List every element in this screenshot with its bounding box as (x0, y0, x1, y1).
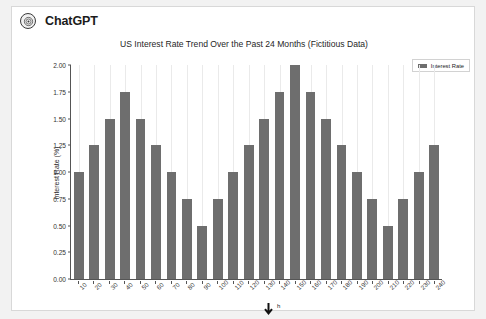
chatgpt-response-card: ChatGPT US Interest Rate Trend Over the … (11, 6, 475, 311)
bar-slot (179, 65, 194, 279)
x-tick: 190 (349, 281, 365, 311)
plot-area: 0.000.250.500.751.001.251.501.752.00 (70, 65, 442, 280)
bar (290, 65, 300, 279)
x-tick: 40 (117, 281, 133, 311)
x-tick: 80 (179, 281, 195, 311)
bar (352, 172, 362, 279)
x-tick: 10 (70, 281, 86, 311)
bar-slot (365, 65, 380, 279)
bar (136, 119, 146, 280)
bar (398, 199, 408, 279)
bar (337, 145, 347, 279)
bar-slot (195, 65, 210, 279)
x-tick: 150 (287, 281, 303, 311)
bar (182, 199, 192, 279)
x-tick: 20 (86, 281, 102, 311)
bar (228, 172, 238, 279)
x-axis: 1020304050607080901001101201301401501601… (70, 281, 442, 311)
bar-slot (334, 65, 349, 279)
bar (89, 145, 99, 279)
bar (120, 92, 130, 279)
bar (197, 226, 207, 280)
app-header: ChatGPT (12, 7, 474, 35)
bar-slot (287, 65, 302, 279)
x-tick: 210 (380, 281, 396, 311)
x-tick: 60 (148, 281, 164, 311)
bar (414, 172, 424, 279)
bar-chart: US Interest Rate Trend Over the Past 24 … (12, 33, 476, 312)
x-tick: 120 (241, 281, 257, 311)
bar-slot (117, 65, 132, 279)
bar-slot (86, 65, 101, 279)
bar (151, 145, 161, 279)
bar-slot (303, 65, 318, 279)
bar (74, 172, 84, 279)
bar-slot (411, 65, 426, 279)
openai-logo-icon (20, 13, 36, 29)
bar (244, 145, 254, 279)
cursor-hint-label: h (277, 303, 280, 309)
bar (105, 119, 115, 280)
bar (275, 92, 285, 279)
x-tick: 180 (334, 281, 350, 311)
bar (321, 119, 331, 280)
bar-slot (272, 65, 287, 279)
bar-series (71, 65, 442, 279)
x-tick: 110 (225, 281, 241, 311)
x-tick: 220 (396, 281, 412, 311)
bar-slot (71, 65, 86, 279)
bar-slot (133, 65, 148, 279)
bar-slot (426, 65, 441, 279)
x-tick: 100 (210, 281, 226, 311)
bar (259, 119, 269, 280)
bar (367, 199, 377, 279)
x-tick: 240 (427, 281, 443, 311)
x-tick: 230 (411, 281, 427, 311)
x-tick: 160 (303, 281, 319, 311)
x-tick: 170 (318, 281, 334, 311)
bar-slot (349, 65, 364, 279)
x-tick: 50 (132, 281, 148, 311)
bar-slot (256, 65, 271, 279)
bar-slot (318, 65, 333, 279)
x-tick: 90 (194, 281, 210, 311)
x-tick: 70 (163, 281, 179, 311)
x-tick: 30 (101, 281, 117, 311)
bar-slot (164, 65, 179, 279)
bar (213, 199, 223, 279)
bar-slot (102, 65, 117, 279)
bar-slot (210, 65, 225, 279)
bar-slot (241, 65, 256, 279)
bar (306, 92, 316, 279)
chart-title: US Interest Rate Trend Over the Past 24 … (12, 39, 476, 49)
brand-name: ChatGPT (45, 14, 98, 28)
x-tick-label: 240 (434, 279, 446, 291)
down-arrow-cursor-icon: h (263, 302, 280, 317)
bar (167, 172, 177, 279)
bar (429, 145, 439, 279)
bar-slot (226, 65, 241, 279)
x-tick: 200 (365, 281, 381, 311)
bar-slot (148, 65, 163, 279)
bar-slot (380, 65, 395, 279)
bar (383, 226, 393, 280)
bar-slot (396, 65, 411, 279)
